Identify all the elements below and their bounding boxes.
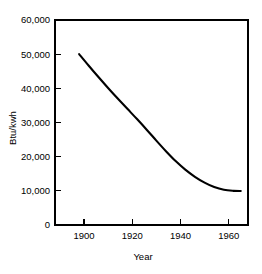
y-axis-title: Btu/kwh [7,111,18,145]
y-tick-label: 30,000 [21,117,50,128]
plot-frame [55,20,248,225]
y-axis-tick-labels: 010,00020,00030,00040,00050,00060,000 [21,14,50,230]
data-series-line [79,54,241,191]
x-tick-label: 1940 [170,230,191,241]
y-tick-label: 60,000 [21,14,50,25]
y-tick-label: 40,000 [21,83,50,94]
x-axis-tick-labels: 1900192019401960 [73,230,239,241]
y-tick-label: 50,000 [21,49,50,60]
x-tick-label: 1900 [73,230,94,241]
x-axis-ticks [84,219,229,225]
y-tick-label: 20,000 [21,151,50,162]
y-tick-label: 10,000 [21,185,50,196]
y-axis-ticks [55,54,61,191]
plot-border [55,20,248,225]
x-tick-label: 1960 [218,230,239,241]
y-tick-label: 0 [45,219,50,230]
chart-container: 010,00020,00030,00040,00050,00060,000 19… [0,0,262,274]
line-chart: 010,00020,00030,00040,00050,00060,000 19… [0,0,262,274]
x-tick-label: 1920 [122,230,143,241]
x-axis-title: Year [133,251,152,262]
